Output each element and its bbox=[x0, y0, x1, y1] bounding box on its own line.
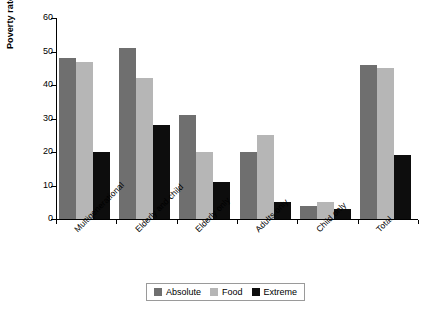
chart-legend: AbsoluteFoodExtreme bbox=[146, 283, 305, 301]
y-tick-label: 60 bbox=[43, 12, 53, 22]
bar-food bbox=[377, 68, 394, 219]
legend-swatch-icon bbox=[154, 288, 162, 296]
legend-item-absolute[interactable]: Absolute bbox=[154, 287, 201, 297]
x-tick-mark bbox=[116, 220, 117, 224]
bar-group bbox=[59, 18, 110, 219]
bar-absolute bbox=[240, 152, 257, 219]
legend-label: Absolute bbox=[166, 287, 201, 297]
legend-label: Extreme bbox=[264, 287, 298, 297]
y-axis-title: Poverty rate (%) bbox=[5, 0, 19, 74]
legend-item-extreme[interactable]: Extreme bbox=[252, 287, 298, 297]
x-tick-mark bbox=[237, 220, 238, 224]
bar-food bbox=[76, 62, 93, 219]
bar-absolute bbox=[59, 58, 76, 219]
y-tick-20: 20 bbox=[56, 152, 57, 153]
x-tick-mark bbox=[358, 220, 359, 224]
y-tick-60: 60 bbox=[56, 18, 57, 19]
y-tick-label: 20 bbox=[43, 146, 53, 156]
y-tick-label: 30 bbox=[43, 113, 53, 123]
legend-swatch-icon bbox=[210, 288, 218, 296]
x-tick-mark bbox=[418, 220, 419, 224]
y-tick-40: 40 bbox=[56, 85, 57, 86]
bar-food bbox=[257, 135, 274, 219]
bar-group bbox=[360, 18, 411, 219]
x-tick-mark bbox=[297, 220, 298, 224]
y-tick-label: 40 bbox=[43, 79, 53, 89]
x-tick-mark bbox=[177, 220, 178, 224]
y-tick-30: 30 bbox=[56, 119, 57, 120]
legend-label: Food bbox=[222, 287, 243, 297]
y-tick-label: 50 bbox=[43, 46, 53, 56]
y-tick-label: 10 bbox=[43, 180, 53, 190]
bar-food bbox=[136, 78, 153, 219]
bar-group bbox=[179, 18, 230, 219]
bar-absolute bbox=[179, 115, 196, 219]
legend-item-food[interactable]: Food bbox=[210, 287, 243, 297]
bar-group bbox=[240, 18, 291, 219]
x-tick-mark bbox=[56, 220, 57, 224]
y-tick-50: 50 bbox=[56, 52, 57, 53]
bar-absolute bbox=[360, 65, 377, 219]
legend-swatch-icon bbox=[252, 288, 260, 296]
poverty-rate-bar-chart: Poverty rate (%) 0102030405060 Multigene… bbox=[0, 0, 432, 320]
bar-group bbox=[300, 18, 351, 219]
y-tick-label: 0 bbox=[48, 213, 53, 223]
bar-absolute bbox=[119, 48, 136, 219]
bar-extreme bbox=[394, 155, 411, 219]
bar-group bbox=[119, 18, 170, 219]
y-tick-10: 10 bbox=[56, 186, 57, 187]
bar-absolute bbox=[300, 206, 317, 219]
